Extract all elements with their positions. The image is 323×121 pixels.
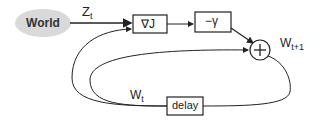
signal-wt-sub: t <box>141 94 144 104</box>
signal-z-label: Zt <box>82 4 92 19</box>
signal-wnext-sub: t+1 <box>291 42 304 52</box>
arrow-gain-to-sum <box>231 28 253 43</box>
signal-wnext-label: Wt+1 <box>280 36 304 50</box>
feedback-wt-to-gradient <box>72 29 167 106</box>
gradient-label: ∇J <box>141 17 155 31</box>
gain-label: −γ <box>205 14 218 28</box>
delay-label: delay <box>172 99 198 111</box>
signal-wnext-base: W <box>280 36 291 50</box>
signal-wt-base: W <box>130 88 141 102</box>
signal-wt-label: Wt <box>130 88 144 102</box>
world-label: World <box>16 11 70 35</box>
signal-z-base: Z <box>82 4 90 19</box>
feedback-sum-to-delay <box>203 56 290 106</box>
